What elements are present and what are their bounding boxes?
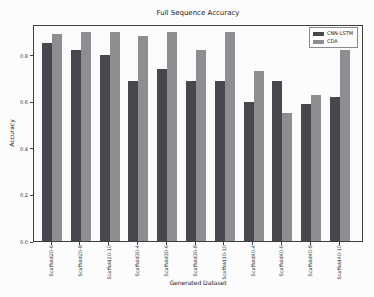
bar-cda-7 <box>254 71 264 241</box>
figure: Full Sequence Accuracy Accuracy CNN-LSTM… <box>0 0 374 297</box>
y-tick-label: 0.8 <box>8 53 28 59</box>
bar-cnn-lstm-4 <box>157 69 167 241</box>
cnn-lstm-swatch <box>313 32 324 36</box>
y-tick-label: 0.2 <box>8 192 28 198</box>
bar-cnn-lstm-3 <box>128 81 138 242</box>
y-tick-mark <box>30 148 33 149</box>
legend-item-cda: CDA <box>313 39 353 44</box>
legend: CNN-LSTM CDA <box>309 27 358 48</box>
bar-cnn-lstm-5 <box>186 81 196 242</box>
bar-cda-2 <box>110 32 120 241</box>
cda-swatch <box>313 40 324 44</box>
chart-title: Full Sequence Accuracy <box>33 9 363 17</box>
bar-cda-5 <box>196 50 206 241</box>
bar-cnn-lstm-0 <box>42 43 52 241</box>
legend-label-cda: CDA <box>327 39 338 44</box>
y-tick-mark <box>30 242 33 243</box>
bar-cda-9 <box>311 95 321 242</box>
y-axis-label: Accuracy <box>8 119 15 146</box>
bar-cda-4 <box>167 32 177 241</box>
bar-cda-1 <box>81 32 91 241</box>
bar-cnn-lstm-8 <box>272 81 282 242</box>
y-tick-mark <box>30 195 33 196</box>
legend-item-cnn-lstm: CNN-LSTM <box>313 31 353 36</box>
bar-cda-6 <box>225 32 235 241</box>
bar-cda-10 <box>340 50 350 241</box>
y-tick-label: 0.0 <box>8 239 28 245</box>
y-tick-label: 0.6 <box>8 99 28 105</box>
y-tick-mark <box>30 55 33 56</box>
legend-label-cnn-lstm: CNN-LSTM <box>327 31 353 36</box>
bar-cnn-lstm-7 <box>244 102 254 242</box>
bar-cnn-lstm-9 <box>301 104 311 241</box>
x-axis-label: Generated Dataset <box>33 279 363 286</box>
bar-cnn-lstm-2 <box>100 55 110 241</box>
y-tick-label: 0.4 <box>8 146 28 152</box>
y-tick-mark <box>30 102 33 103</box>
bar-cnn-lstm-10 <box>330 97 340 241</box>
bar-cnn-lstm-1 <box>71 50 81 241</box>
plot-area: CNN-LSTM CDA <box>33 25 363 242</box>
bar-cda-0 <box>52 34 62 241</box>
bar-cda-8 <box>282 113 292 241</box>
bar-cda-3 <box>138 36 148 241</box>
bar-cnn-lstm-6 <box>215 81 225 242</box>
